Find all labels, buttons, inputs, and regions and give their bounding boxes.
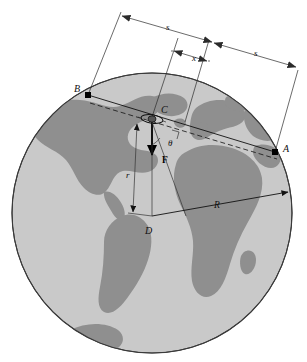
dimension-label-s-left: s [166, 22, 170, 32]
point-marker-A [272, 149, 278, 155]
point-label-D: D [144, 225, 153, 236]
angle-theta-label: θ [168, 138, 173, 148]
figure-canvas: s x s F θ r R [0, 0, 307, 362]
satellite-core [148, 116, 156, 122]
dimension-label-s-right: s [254, 48, 258, 58]
earth-geometry-figure: s x s F θ r R [0, 0, 307, 362]
point-label-C: C [161, 104, 168, 115]
dimension-label-x: x [191, 53, 196, 63]
point-marker-B [85, 92, 91, 98]
radius-r-label: r [126, 170, 130, 180]
radius-R-label: R [213, 200, 220, 210]
point-label-B: B [74, 83, 80, 94]
point-label-A: A [282, 143, 290, 154]
